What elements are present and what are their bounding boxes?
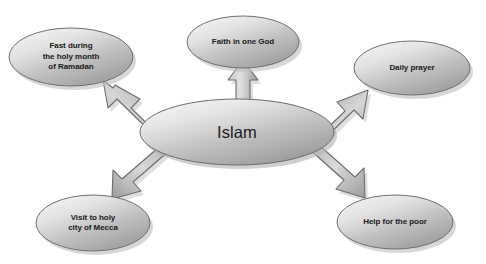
node-ellipse-charity[interactable] [337,195,456,253]
concept-map-graphic [0,0,486,264]
node-ellipse-center[interactable] [140,99,337,169]
node-ellipse-faith[interactable] [187,16,302,72]
node-ellipse-mecca[interactable] [36,195,153,255]
diagram-canvas: The Beliefs of Islam [0,0,486,264]
node-ellipse-fasting[interactable] [9,28,136,90]
node-ellipse-prayer[interactable] [354,41,473,99]
